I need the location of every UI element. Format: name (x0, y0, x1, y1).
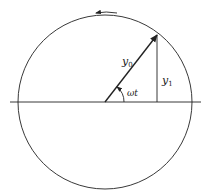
projection-label: y1 (161, 74, 173, 88)
amplitude-label: y0 (121, 55, 133, 69)
rotation-arrow-icon (96, 12, 117, 13)
phasor-diagram: y0 y1 ωt (0, 0, 211, 196)
angle-label: ωt (127, 88, 138, 98)
angle-arc (117, 87, 124, 102)
phasor-svg: y0 y1 ωt (0, 0, 211, 196)
